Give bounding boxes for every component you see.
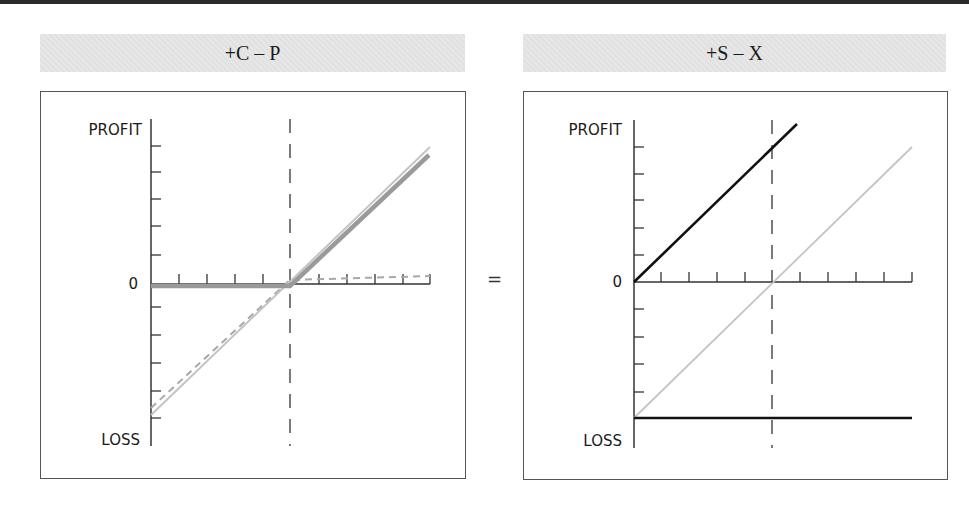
- left-chart: [151, 119, 430, 446]
- right-chart: [634, 120, 912, 448]
- charts-svg: [0, 0, 969, 512]
- right-y-ticks: [634, 147, 644, 392]
- right-x-ticks: [661, 272, 912, 282]
- left-x-ticks: [179, 274, 430, 284]
- left-y-ticks: [151, 146, 161, 418]
